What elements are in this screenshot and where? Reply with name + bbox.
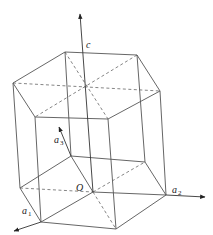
svg-text:3: 3 — [60, 139, 64, 147]
origin-label: O — [76, 182, 83, 193]
c-axis-label: c — [86, 39, 91, 50]
svg-text:a: a — [172, 184, 177, 195]
a1-axis — [14, 222, 41, 231]
a1-label: a 1 — [22, 205, 32, 218]
axes — [14, 14, 205, 231]
a2-axis — [166, 195, 205, 197]
svg-text:2: 2 — [178, 189, 182, 197]
hexagonal-prism-diagram: c O a 2 a 1 a 3 — [0, 0, 213, 235]
svg-text:a: a — [54, 134, 59, 145]
bottom-hexagon — [20, 156, 166, 229]
svg-text:a: a — [22, 205, 27, 216]
svg-text:1: 1 — [28, 210, 32, 218]
